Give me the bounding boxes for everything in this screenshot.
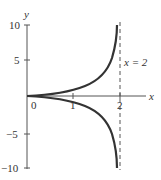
y-axis-label: y (23, 8, 29, 20)
asymptote-label: x = 2 (123, 56, 148, 68)
y-tick-label-neg5: −5 (6, 128, 18, 140)
x-axis-label: x (148, 90, 154, 102)
y-tick-label-neg10: −10 (1, 162, 19, 174)
y-tick-label-5: 5 (14, 54, 20, 66)
origin-label: 0 (31, 99, 37, 111)
upper-curve (27, 25, 117, 96)
chart: y x 10 5 −5 −10 0 1 2 x = 2 (0, 0, 161, 180)
y-tick-label-10: 10 (9, 19, 21, 31)
x-tick-label-2: 2 (117, 99, 123, 111)
x-tick-label-1: 1 (70, 99, 76, 111)
